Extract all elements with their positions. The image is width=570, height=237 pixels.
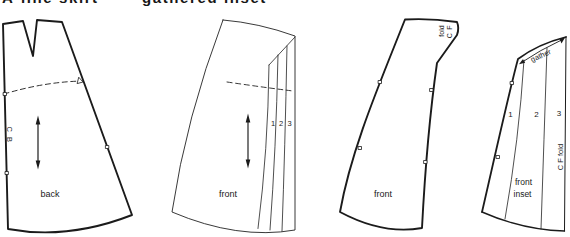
front-inset-hem-edge xyxy=(482,212,565,231)
front-draft-label: front xyxy=(219,189,238,199)
back-notch-right xyxy=(106,146,109,149)
front-inset-gather-arrowhead-right xyxy=(560,38,566,44)
front-inset-section-2: 2 xyxy=(534,110,539,119)
back-cb-label: C B xyxy=(5,126,14,143)
front-inset-section-1: 1 xyxy=(508,110,513,119)
front-draft-section-1: 1 xyxy=(271,119,275,128)
front-inset-cf-edge xyxy=(565,37,567,231)
front-draft-grainline-arrowhead-bottom xyxy=(246,160,251,169)
front-inset-label-line1: front xyxy=(515,177,533,187)
front-draft-outline xyxy=(172,20,295,233)
front-inset-panel-line-2 xyxy=(541,48,547,229)
front-draft-inset-style-line xyxy=(269,37,295,65)
back-grainline-arrowhead-bottom xyxy=(36,161,41,170)
front-inset-section-3: 3 xyxy=(557,109,562,118)
front-inset-notch-left-top xyxy=(511,82,514,85)
front-outline xyxy=(340,19,458,230)
back-notch-left-top xyxy=(4,93,7,96)
front-draft-section-3: 3 xyxy=(287,119,291,128)
back-notch-left-bottom xyxy=(5,172,8,175)
back-outline-with-dart xyxy=(3,20,132,232)
front-notch-left-bottom xyxy=(359,147,362,150)
front-draft-slash-line-3 xyxy=(282,46,287,231)
piece-front-inset xyxy=(482,37,566,231)
piece-front xyxy=(340,19,458,230)
piece-front-draft xyxy=(172,20,295,233)
back-label: back xyxy=(40,189,60,199)
front-draft-grainline-arrowhead-top xyxy=(246,114,251,123)
back-grainline-arrowhead-top xyxy=(36,116,41,125)
front-notch-right-bottom xyxy=(424,161,427,164)
front-notch-left-top xyxy=(379,81,382,84)
front-draft-hip-dashed-line xyxy=(227,82,293,91)
front-inset-cf-fold-label: C F fold xyxy=(556,144,565,170)
back-hip-dashed-line xyxy=(4,81,82,94)
front-draft-slash-line-1 xyxy=(258,65,269,229)
front-draft-section-2: 2 xyxy=(279,119,283,128)
front-fold-label: fold xyxy=(438,25,445,36)
pattern-diagram: back C B front 1 2 3 front fold C F xyxy=(0,0,570,237)
front-notch-right-top xyxy=(430,89,433,92)
front-inset-notch-left-bottom xyxy=(497,156,500,159)
front-cf-label: C F xyxy=(446,25,453,39)
front-label: front xyxy=(374,189,393,199)
front-draft-slash-line-2 xyxy=(270,55,278,230)
scanned-page: A-line skirt gathered inset back C B xyxy=(0,0,570,237)
piece-back xyxy=(3,20,132,232)
front-inset-label-line2: inset xyxy=(514,189,533,199)
